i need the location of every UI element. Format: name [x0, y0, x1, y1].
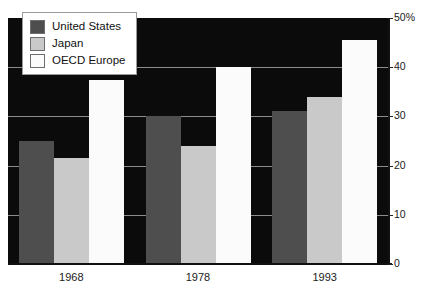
y-tick-mark-30 [388, 116, 393, 117]
chart-legend: United States Japan OECD Europe [22, 12, 137, 75]
x-tick-label-1968: 1968 [8, 271, 135, 283]
y-tick-mark-50 [388, 18, 393, 19]
x-tick-label-1978: 1978 [135, 271, 262, 283]
bar-oecd-europe-1993 [342, 40, 377, 264]
bar-chart: 50%403020100 196819781993 United States … [0, 0, 422, 296]
legend-label-japan: Japan [52, 38, 83, 50]
legend-item: OECD Europe [30, 52, 126, 69]
y-tick-mark-40 [388, 67, 393, 68]
y-tick-label-10: 10 [394, 209, 406, 220]
y-axis-line [388, 18, 390, 264]
bar-united-states-1978 [146, 116, 181, 264]
legend-item: United States [30, 18, 126, 35]
y-tick-label-40: 40 [394, 61, 406, 72]
y-tick-mark-0 [388, 264, 393, 265]
bar-japan-1968 [54, 158, 89, 264]
bar-japan-1993 [307, 97, 342, 264]
legend-label-united-states: United States [52, 21, 121, 33]
bar-united-states-1993 [272, 111, 307, 264]
y-tick-label-20: 20 [394, 160, 406, 171]
y-tick-mark-20 [388, 166, 393, 167]
bar-united-states-1968 [19, 141, 54, 264]
legend-swatch-oecd-europe [30, 54, 45, 68]
bar-oecd-europe-1968 [89, 80, 124, 265]
legend-swatch-united-states [30, 20, 45, 34]
y-tick-label-50: 50% [394, 12, 415, 23]
y-tick-mark-10 [388, 215, 393, 216]
legend-swatch-japan [30, 37, 45, 51]
bar-oecd-europe-1978 [216, 67, 251, 264]
x-axis-line [8, 263, 392, 265]
legend-item: Japan [30, 35, 126, 52]
legend-label-oecd-europe: OECD Europe [52, 55, 126, 67]
x-tick-label-1993: 1993 [261, 271, 388, 283]
bar-japan-1978 [181, 146, 216, 264]
y-tick-label-30: 30 [394, 110, 406, 121]
y-tick-label-0: 0 [394, 258, 400, 269]
